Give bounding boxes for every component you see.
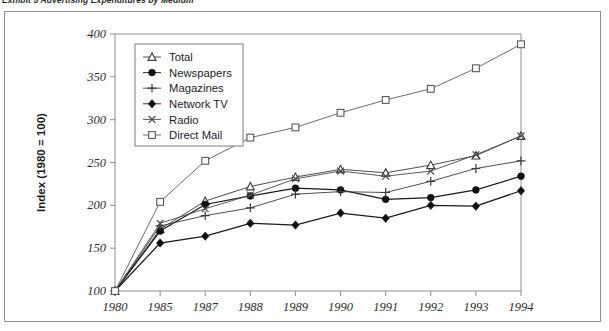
- marker-square: [247, 134, 254, 141]
- x-tick-label: 1994: [509, 300, 534, 314]
- series-line: [115, 136, 521, 291]
- legend-label: Newspapers: [169, 67, 232, 79]
- y-tick-label: 100: [87, 284, 107, 298]
- series-radio: [112, 133, 525, 295]
- legend: TotalNewspapersMagazinesNetwork TVRadioD…: [135, 44, 243, 146]
- y-tick-label: 400: [87, 27, 107, 41]
- legend-label: Radio: [169, 114, 199, 126]
- series-magazines: [111, 156, 526, 295]
- marker-diamond: [472, 202, 479, 210]
- figure-caption: Exhibit 5 Advertising Expenditures by Me…: [2, 0, 194, 5]
- marker-diamond: [202, 232, 209, 240]
- marker-square: [382, 97, 389, 104]
- marker-plus: [201, 211, 210, 220]
- marker-square: [157, 199, 164, 206]
- marker-square: [112, 288, 119, 295]
- y-tick-label: 150: [87, 241, 107, 255]
- legend-label: Total: [169, 51, 193, 63]
- marker-diamond: [517, 187, 524, 195]
- y-tick-label: 250: [87, 156, 107, 170]
- x-tick-label: 1993: [463, 300, 488, 314]
- marker-square: [427, 85, 434, 92]
- marker-circle: [382, 196, 389, 203]
- y-tick-label: 200: [87, 198, 107, 212]
- x-tick-label: 1989: [283, 300, 309, 314]
- figure-frame: 100150200250300350400Index (1980 = 100)1…: [4, 11, 601, 322]
- x-tick-label: 1985: [148, 300, 173, 314]
- series-line: [115, 176, 521, 291]
- y-axis-title: Index (1980 = 100): [35, 113, 47, 212]
- marker-square: [472, 65, 479, 72]
- x-tick-label: 1987: [193, 300, 219, 314]
- marker-circle: [472, 187, 479, 194]
- y-tick-label: 300: [86, 113, 107, 127]
- series-total: [111, 132, 525, 294]
- marker-plus: [471, 164, 480, 173]
- legend-label: Magazines: [169, 82, 224, 94]
- marker-circle: [518, 173, 525, 180]
- x-tick-label: 1991: [373, 300, 398, 314]
- y-tick-label: 350: [86, 70, 107, 84]
- marker-plus: [517, 156, 526, 165]
- series-line: [115, 161, 521, 291]
- legend-label: Direct Mail: [169, 129, 222, 141]
- marker-diamond: [247, 219, 254, 227]
- marker-square: [337, 109, 344, 116]
- x-tick-label: 1988: [238, 300, 264, 314]
- x-tick-label: 1990: [328, 300, 354, 314]
- marker-square: [518, 41, 525, 48]
- marker-circle: [149, 69, 156, 76]
- marker-plus: [246, 204, 255, 213]
- figure-caption-strip: Exhibit 5 Advertising Expenditures by Me…: [0, 0, 609, 9]
- marker-square: [202, 157, 209, 164]
- series-newspapers: [112, 173, 525, 295]
- marker-plus: [381, 188, 390, 197]
- marker-plus: [291, 190, 300, 199]
- x-tick-label: 1980: [103, 300, 129, 314]
- series-line: [115, 191, 521, 291]
- marker-diamond: [337, 209, 344, 217]
- series-network-tv: [111, 187, 524, 296]
- line-chart: 100150200250300350400Index (1980 = 100)1…: [5, 12, 602, 323]
- marker-circle: [427, 194, 434, 201]
- x-tick-label: 1992: [418, 300, 443, 314]
- marker-plus: [426, 177, 435, 186]
- marker-diamond: [382, 214, 389, 222]
- marker-diamond: [427, 201, 434, 209]
- marker-square: [149, 132, 156, 139]
- marker-square: [292, 124, 299, 131]
- marker-diamond: [292, 221, 299, 229]
- legend-label: Network TV: [169, 98, 228, 110]
